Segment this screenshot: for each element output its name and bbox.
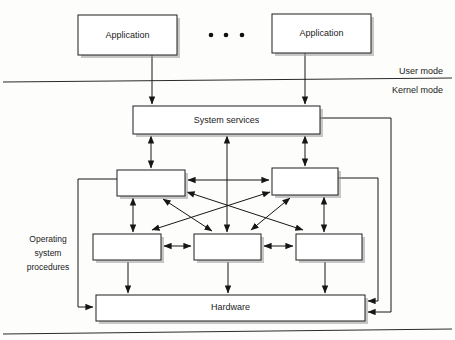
box-label: Application [105,30,149,40]
box-outline [296,234,362,260]
box-application-left[interactable]: Application [78,15,180,58]
ellipsis-dot [240,33,245,38]
box-os-procedure-top-left[interactable] [117,170,188,199]
ellipsis-dots [209,33,245,38]
box-label: Application [299,28,343,38]
side-label-line2: system [35,248,62,258]
box-outline [272,168,338,195]
box-outline [194,234,261,260]
bottom-border-line [3,329,452,334]
side-label-line1: Operating [29,234,67,244]
box-outline [117,170,185,196]
connector-services-routed-to-hardware [320,118,391,312]
kernel-mode-label: Kernel mode [392,85,443,95]
diagram-canvas: User mode Kernel mode [0,0,455,340]
box-os-procedure-bottom-left[interactable] [93,234,164,263]
os-structure-diagram: User mode Kernel mode [0,0,455,340]
connector-top-left-to-bot-mid [163,199,212,231]
ellipsis-dot [209,33,214,38]
operating-system-procedures-label: Operating system procedures [27,234,70,272]
box-os-procedure-top-right[interactable] [272,168,341,198]
box-application-right[interactable]: Application [272,14,374,56]
ellipsis-dot [224,33,229,38]
mode-divider-line [3,78,452,82]
box-os-procedure-bottom-right[interactable] [296,234,365,263]
box-os-procedure-bottom-middle[interactable] [194,234,264,263]
user-mode-label: User mode [399,66,443,76]
connector-top-right-to-bot-mid [251,198,290,230]
box-label: System services [194,115,260,125]
box-hardware[interactable]: Hardware [96,295,368,324]
side-label-line3: procedures [27,262,70,272]
box-outline [93,234,161,260]
box-label: Hardware [211,302,250,312]
box-system-services[interactable]: System services [133,106,323,137]
